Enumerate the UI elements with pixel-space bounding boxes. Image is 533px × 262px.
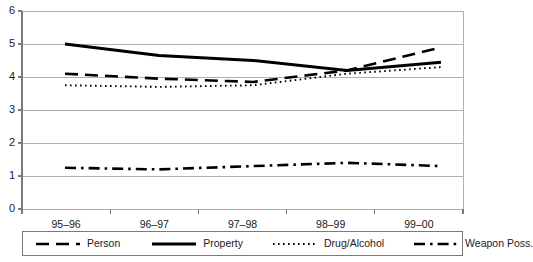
legend-item-person[interactable]: Person bbox=[36, 232, 120, 255]
legend-swatch-property bbox=[152, 238, 196, 250]
legend-label-person: Person bbox=[87, 238, 120, 249]
series-line-property bbox=[65, 44, 441, 70]
legend-label-drug-alcohol: Drug/Alcohol bbox=[324, 238, 384, 249]
y-axis-label-2: 2 bbox=[1, 137, 15, 148]
legend-item-drug-alcohol[interactable]: Drug/Alcohol bbox=[273, 232, 384, 255]
x-axis-label-2: 97–98 bbox=[198, 219, 286, 230]
legend-swatch-person bbox=[36, 238, 80, 250]
legend-label-property: Property bbox=[203, 238, 243, 249]
legend-item-property[interactable]: Property bbox=[152, 232, 243, 255]
y-axis-label-4: 4 bbox=[1, 71, 15, 82]
chart-legend: PersonPropertyDrug/AlcoholWeapon Poss. bbox=[22, 231, 463, 256]
legend-label-weapon-poss: Weapon Poss. bbox=[465, 238, 533, 249]
x-axis-label-0: 95–96 bbox=[22, 219, 110, 230]
legend-swatch-drug-alcohol bbox=[273, 238, 317, 250]
legend-item-weapon-poss[interactable]: Weapon Poss. bbox=[414, 232, 533, 255]
y-axis-label-3: 3 bbox=[1, 104, 15, 115]
x-axis-label-4: 99–00 bbox=[375, 219, 463, 230]
legend-swatch-weapon-poss bbox=[414, 238, 458, 250]
y-axis-label-5: 5 bbox=[1, 38, 15, 49]
x-axis-label-3: 98–99 bbox=[287, 219, 375, 230]
x-axis-label-1: 96–97 bbox=[110, 219, 198, 230]
series-line-weapon-poss bbox=[65, 163, 441, 170]
y-axis-label-0: 0 bbox=[1, 203, 15, 214]
y-axis-label-6: 6 bbox=[1, 5, 15, 16]
y-axis-label-1: 1 bbox=[1, 170, 15, 181]
